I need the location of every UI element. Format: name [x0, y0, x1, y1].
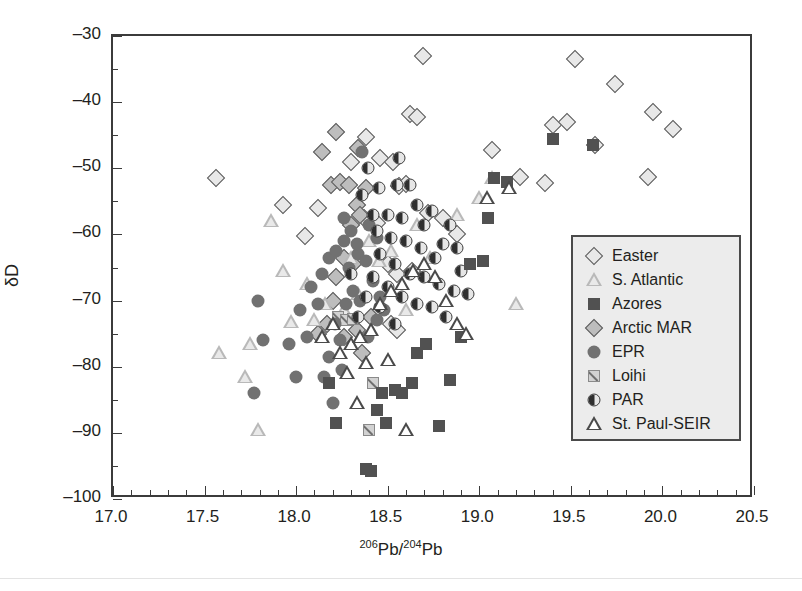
datapoint-epr	[356, 145, 369, 158]
legend-item-st-paul-seir[interactable]: St. Paul-SEIR	[573, 412, 739, 436]
x-tick	[186, 490, 187, 495]
legend-swatch-dark-triangle-icon	[584, 414, 604, 434]
legend-swatch-light-triangle-icon	[584, 270, 604, 290]
datapoint-epr	[315, 268, 328, 281]
legend-item-easter[interactable]: Easter	[573, 244, 739, 268]
datapoint-par	[451, 241, 464, 254]
datapoint-par	[372, 182, 385, 195]
datapoint-par	[414, 241, 427, 254]
legend-item-loihi[interactable]: Loihi	[573, 364, 739, 388]
legend-item-epr[interactable]: EPR	[573, 340, 739, 364]
legend-marker-light-square-slash-icon	[588, 370, 600, 382]
x-axis-title: 206Pb/204Pb	[0, 540, 802, 560]
datapoint-par	[425, 301, 438, 314]
datapoint-easter	[296, 227, 314, 245]
datapoint-st-paul-seir	[332, 345, 348, 359]
x-tick	[717, 490, 718, 495]
datapoint-epr	[304, 281, 317, 294]
datapoint-par	[367, 271, 380, 284]
y-tick-label: –50	[46, 156, 101, 176]
y-tick	[113, 69, 118, 70]
y-tick	[113, 367, 122, 368]
datapoint-par	[425, 205, 438, 218]
legend-swatch-filled-circle-icon	[584, 342, 604, 362]
legend-item-azores[interactable]: Azores	[573, 292, 739, 316]
datapoint-par	[367, 208, 380, 221]
datapoint-epr	[350, 238, 363, 251]
legend-label: Loihi	[612, 368, 646, 384]
datapoint-par	[390, 178, 403, 191]
datapoint-azores	[376, 387, 388, 399]
datapoint-par	[411, 198, 424, 211]
datapoint-azores	[420, 338, 432, 350]
datapoint-azores	[330, 417, 342, 429]
datapoint-st-paul-seir	[416, 256, 432, 270]
x-tick	[168, 490, 169, 495]
datapoint-epr	[293, 304, 306, 317]
datapoint-par	[359, 291, 372, 304]
legend-swatch-open-diamond-icon	[584, 246, 604, 266]
legend-label: Easter	[612, 248, 658, 264]
datapoint-st-paul-seir	[358, 355, 374, 369]
datapoint-epr	[337, 211, 350, 224]
legend-item-s-atlantic[interactable]: S. Atlantic	[573, 268, 739, 292]
datapoint-par	[374, 248, 387, 261]
x-tick	[607, 490, 608, 495]
datapoint-azores	[406, 377, 418, 389]
x-tick-label: 18.0	[278, 507, 311, 527]
y-tick-label: –100	[46, 487, 101, 507]
y-axis-title: δD	[2, 264, 23, 287]
y-tick	[113, 433, 122, 434]
datapoint-easter	[558, 113, 576, 131]
x-tick	[369, 490, 370, 495]
datapoint-s-atlantic	[250, 421, 266, 435]
y-tick	[113, 466, 118, 467]
datapoint-par	[403, 178, 416, 191]
legend-label: St. Paul-SEIR	[612, 416, 711, 432]
legend-label: Azores	[612, 296, 662, 312]
y-tick-label: –40	[46, 90, 101, 110]
x-tick	[205, 486, 206, 495]
x-tick	[553, 490, 554, 495]
x-tick	[131, 490, 132, 495]
x-tick	[589, 490, 590, 495]
datapoint-par	[385, 231, 398, 244]
datapoint-easter	[206, 169, 224, 187]
x-tick	[571, 486, 572, 495]
x-tick	[443, 490, 444, 495]
legend-marker-filled-circle-icon	[588, 346, 601, 359]
y-tick	[113, 168, 122, 169]
y-tick-label: –80	[46, 355, 101, 375]
datapoint-st-paul-seir	[314, 329, 330, 343]
x-tick-label: 20.0	[644, 507, 677, 527]
y-tick	[113, 268, 118, 269]
x-tick	[113, 486, 114, 495]
x-tick	[626, 490, 627, 495]
y-tick	[113, 135, 118, 136]
legend-item-arctic-mar[interactable]: Arctic MAR	[573, 316, 739, 340]
datapoint-easter	[565, 50, 583, 68]
x-tick	[498, 490, 499, 495]
y-tick	[113, 334, 118, 335]
datapoint-arctic-mar	[313, 143, 331, 161]
x-axis-title-sup-204: 204	[403, 538, 421, 550]
datapoint-easter	[413, 47, 431, 65]
datapoint-easter	[274, 195, 292, 213]
x-tick	[333, 490, 334, 495]
y-tick-label: –60	[46, 222, 101, 242]
legend-marker-light-triangle-icon	[586, 272, 602, 286]
x-tick	[150, 490, 151, 495]
legend-item-par[interactable]: PAR	[573, 388, 739, 412]
datapoint-par	[436, 238, 449, 251]
y-tick	[113, 102, 122, 103]
datapoint-azores	[488, 172, 500, 184]
datapoint-easter	[606, 75, 624, 93]
x-tick-label: 19.0	[461, 507, 494, 527]
datapoint-easter	[309, 199, 327, 217]
datapoint-azores	[482, 212, 494, 224]
datapoint-par	[411, 297, 424, 310]
x-tick	[388, 486, 389, 495]
legend-swatch-light-square-slash-icon	[584, 366, 604, 386]
datapoint-loihi	[363, 424, 375, 436]
datapoint-epr	[257, 334, 270, 347]
